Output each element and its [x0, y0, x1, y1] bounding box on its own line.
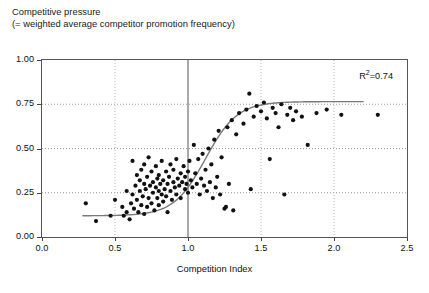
data-point [196, 157, 200, 161]
y-axis-tick-mark [37, 104, 41, 105]
data-point [225, 125, 229, 129]
data-point [217, 129, 221, 133]
data-point [247, 92, 251, 96]
data-point [161, 200, 165, 204]
data-point [306, 143, 310, 147]
data-point [268, 157, 272, 161]
data-point [139, 203, 143, 207]
data-point [174, 192, 178, 196]
data-point [149, 169, 153, 173]
data-point [136, 210, 140, 214]
data-point [157, 189, 161, 193]
x-axis-tick-mark [334, 237, 335, 241]
y-axis-tick-label: 0.50 [0, 143, 34, 153]
data-point [152, 208, 156, 212]
x-axis-tick-mark [42, 237, 43, 241]
data-point [208, 180, 212, 184]
data-point [282, 192, 286, 196]
chart-title-line-1: Competitive pressure [12, 6, 235, 18]
data-point [265, 116, 269, 120]
data-point [186, 191, 190, 195]
data-point [218, 192, 222, 196]
data-point [211, 196, 215, 200]
data-point [146, 155, 150, 159]
x-axis-tick-label: 0.5 [95, 243, 135, 253]
data-point [132, 207, 136, 211]
data-point [234, 132, 238, 136]
data-point [294, 109, 298, 113]
data-point [231, 208, 235, 212]
data-point [199, 176, 203, 180]
data-point [135, 173, 139, 177]
x-axis-tick-mark [115, 237, 116, 241]
data-point [189, 178, 193, 182]
data-point [94, 219, 98, 223]
x-axis-tick-mark [261, 237, 262, 241]
data-point [224, 205, 228, 209]
chart-title-line-2: (= weighted average competitor promotion… [12, 18, 235, 30]
x-axis-tick-label: 0.0 [22, 243, 62, 253]
data-point [325, 107, 329, 111]
data-point [161, 178, 165, 182]
data-point [125, 210, 129, 214]
r2-prefix: R [359, 71, 366, 81]
data-point [139, 168, 143, 172]
data-point [180, 180, 184, 184]
data-point [274, 111, 278, 115]
x-axis-tick-label: 1.0 [168, 243, 208, 253]
data-point [186, 169, 190, 173]
data-point [113, 198, 117, 202]
data-point [241, 122, 245, 126]
data-point [227, 182, 231, 186]
chart-title: Competitive pressure (= weighted average… [12, 6, 235, 31]
data-point [174, 157, 178, 161]
data-point [255, 104, 259, 108]
data-point [276, 125, 280, 129]
data-point [138, 178, 142, 182]
data-point [160, 159, 164, 163]
data-point [215, 175, 219, 179]
data-point [168, 189, 172, 193]
data-point [193, 171, 197, 175]
data-point [157, 173, 161, 177]
data-point [163, 187, 167, 191]
y-axis-tick-mark [37, 193, 41, 194]
data-point [195, 182, 199, 186]
data-point [177, 184, 181, 188]
data-point [158, 182, 162, 186]
data-point [130, 192, 134, 196]
data-point [285, 113, 289, 117]
y-axis-tick-mark [37, 149, 41, 150]
data-point [125, 189, 129, 193]
data-point [183, 187, 187, 191]
data-point [209, 162, 213, 166]
data-point [167, 175, 171, 179]
data-point [151, 180, 155, 184]
data-point [120, 205, 124, 209]
scatter-plot-svg [42, 60, 407, 237]
data-point [300, 115, 304, 119]
data-point [128, 217, 132, 221]
data-point [165, 210, 169, 214]
data-point [168, 162, 172, 166]
data-point [182, 164, 186, 168]
data-point [142, 162, 146, 166]
data-point [157, 203, 161, 207]
data-point [259, 109, 263, 113]
data-point [279, 102, 283, 106]
data-point [249, 187, 253, 191]
data-point [190, 185, 194, 189]
data-point [271, 106, 275, 110]
data-point [84, 201, 88, 205]
data-point [214, 185, 218, 189]
data-point [144, 187, 148, 191]
data-point [142, 182, 146, 186]
x-axis-tick-mark [407, 237, 408, 241]
data-point [184, 182, 188, 186]
y-axis-tick-mark [37, 60, 41, 61]
data-point [148, 184, 152, 188]
x-axis-title: Competition Index [0, 263, 429, 274]
data-point [142, 212, 146, 216]
scatter-points-group [84, 92, 380, 224]
data-point [135, 198, 139, 202]
